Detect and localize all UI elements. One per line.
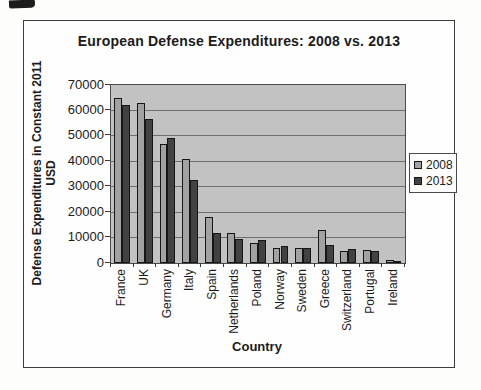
x-axis-boundary-tick-7 [268,263,269,267]
x-axis-boundary-tick-13 [404,263,405,267]
bar-2008-greece [318,230,326,263]
legend-label-2013: 2013 [426,175,453,187]
chart-frame: European Defense Expenditures: 2008 vs. … [23,20,455,368]
x-axis-boundary-tick-6 [246,263,247,267]
x-tick-label-greece: Greece [319,269,331,308]
x-axis-boundary-tick-0 [110,263,111,267]
legend: 2008 2013 [409,153,457,193]
bar-2008-switzerland [340,251,348,263]
x-tick-label-italy: Italy [183,269,195,291]
y-tick-30000 [105,185,110,186]
y-tick-40000 [105,160,110,161]
bar-2008-sweden [295,248,303,263]
scanned-page: European Defense Expenditures: 2008 vs. … [0,0,481,390]
x-tick-label-norway: Norway [274,269,286,310]
y-tick-label-40000: 40000 [58,154,104,167]
bar-2013-netherlands [235,239,243,263]
y-axis-title: Defense Expenditures in Constant 2011 US… [30,53,60,293]
y-tick-label-70000: 70000 [58,78,104,91]
y-tick-70000 [105,84,110,85]
legend-swatch-2013 [414,177,422,185]
legend-label-2008: 2008 [426,159,453,171]
gridline-40000 [111,161,405,162]
x-tick-label-portugal: Portugal [364,269,376,314]
bar-2013-portugal [371,251,379,263]
x-tick-label-sweden: Sweden [296,269,308,312]
bar-2008-ireland [386,260,394,263]
legend-item-2008: 2008 [414,159,456,171]
x-axis-boundary-tick-2 [155,263,156,267]
bar-2008-norway [273,248,281,263]
y-tick-label-50000: 50000 [58,128,104,141]
gridline-60000 [111,110,405,111]
x-axis-boundary-tick-12 [381,263,382,267]
bar-2008-portugal [363,250,371,263]
gridline-50000 [111,135,405,136]
bar-2013-spain [213,233,221,264]
x-tick-label-germany: Germany [161,269,173,318]
y-tick-label-0: 0 [58,256,104,269]
y-tick-20000 [105,211,110,212]
gridline-20000 [111,212,405,213]
x-axis-boundary-tick-9 [314,263,315,267]
bar-2008-netherlands [227,233,235,264]
y-axis-title-line2: USD [44,53,58,293]
y-tick-label-60000: 60000 [58,103,104,116]
x-axis-boundary-tick-8 [291,263,292,267]
y-tick-label-20000: 20000 [58,205,104,218]
bar-2013-sweden [303,248,311,263]
bar-2013-norway [281,246,289,263]
y-tick-10000 [105,236,110,237]
y-tick-label-10000: 10000 [58,230,104,243]
bar-2008-spain [205,217,213,263]
gridline-30000 [111,186,405,187]
x-tick-label-uk: UK [138,269,150,286]
x-tick-label-netherlands: Netherlands [228,269,240,334]
bar-2013-italy [190,180,198,263]
x-axis-boundary-tick-1 [133,263,134,267]
scan-artifact-mark [9,0,35,8]
bar-2013-poland [258,240,266,263]
legend-swatch-2008 [414,161,422,169]
x-tick-label-spain: Spain [206,269,218,300]
x-tick-label-switzerland: Switzerland [341,269,353,331]
x-axis-boundary-tick-10 [336,263,337,267]
x-tick-label-poland: Poland [251,269,263,306]
x-axis-boundary-tick-11 [359,263,360,267]
x-axis-boundary-tick-3 [178,263,179,267]
bar-2013-ireland [394,261,402,263]
chart-title: European Defense Expenditures: 2008 vs. … [24,33,454,49]
bar-2013-greece [326,245,334,263]
bar-2013-germany [167,138,175,263]
x-tick-label-france: France [115,269,127,306]
bar-2013-switzerland [348,249,356,263]
bar-2013-uk [145,119,153,263]
bar-2008-germany [160,144,168,264]
bar-2008-poland [250,243,258,263]
y-tick-label-30000: 30000 [58,179,104,192]
y-tick-60000 [105,109,110,110]
plot-area [110,84,406,264]
x-axis-title: Country [110,339,404,354]
bar-2008-uk [137,103,145,263]
bar-2008-france [114,98,122,263]
y-tick-50000 [105,134,110,135]
gridline-10000 [111,237,405,238]
x-axis-boundary-tick-5 [223,263,224,267]
y-axis-title-line1: Defense Expenditures in Constant 2011 [30,53,44,293]
legend-item-2013: 2013 [414,175,456,187]
bar-2008-italy [182,159,190,263]
x-axis-boundary-tick-4 [200,263,201,267]
x-tick-label-ireland: Ireland [387,269,399,306]
bar-2013-france [122,105,130,263]
